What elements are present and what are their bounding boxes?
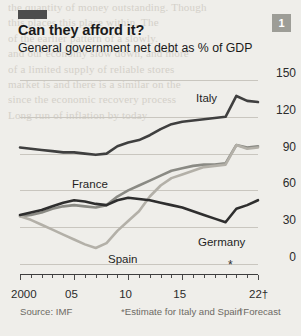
x-axis-tick <box>258 275 259 280</box>
y-axis-tick-label: 0 <box>262 250 296 264</box>
chart-card: 1 Can they afford it? General government… <box>0 0 301 336</box>
y-axis-tick-label: 90 <box>262 140 296 154</box>
x-axis-tick-label: 2000 <box>11 288 37 300</box>
x-axis-tick <box>96 275 97 278</box>
series-line-italy <box>20 96 258 155</box>
y-axis-tick-label: 60 <box>262 176 296 190</box>
x-axis-tick <box>107 275 108 278</box>
y-axis-tick-label: 150 <box>262 66 296 80</box>
x-axis-tick <box>31 275 32 278</box>
x-axis-tick <box>52 275 53 278</box>
x-axis-tick <box>150 275 151 278</box>
x-axis-tick <box>171 275 172 278</box>
x-axis-tick <box>128 275 129 280</box>
x-axis-tick <box>182 275 183 280</box>
x-axis-tick <box>226 275 227 278</box>
footer-estimate-note: *Estimate for Italy and Spain <box>121 306 242 317</box>
x-axis-tick <box>63 275 64 278</box>
estimate-star-marker: * <box>228 258 233 272</box>
x-axis-tick <box>139 275 140 278</box>
x-axis-tick <box>193 275 194 278</box>
x-axis-tick <box>20 275 21 280</box>
series-label-italy: Italy <box>196 92 217 104</box>
series-label-spain: Spain <box>108 253 137 265</box>
x-axis-tick <box>161 275 162 278</box>
y-axis-tick-label: 120 <box>262 103 296 117</box>
x-axis-tick <box>117 275 118 278</box>
y-axis-tick-label: 30 <box>262 213 296 227</box>
x-axis-tick-label: 10 <box>119 288 132 300</box>
x-axis-tick <box>204 275 205 278</box>
x-axis-tick <box>74 275 75 280</box>
x-axis-tick-label: 05 <box>65 288 78 300</box>
x-axis-tick <box>215 275 216 278</box>
x-axis-tick <box>42 275 43 278</box>
x-axis-tick <box>247 275 248 278</box>
x-axis-tick-label: 22† <box>249 288 268 300</box>
series-line-spain <box>20 145 258 248</box>
x-axis-tick <box>85 275 86 278</box>
x-axis-tick <box>236 275 237 278</box>
footer-forecast-note: †Forecast <box>238 306 281 317</box>
footer-source: Source: IMF <box>20 306 72 317</box>
series-label-germany: Germany <box>198 236 245 248</box>
x-axis-tick-label: 15 <box>173 288 186 300</box>
chart-lines <box>0 0 301 336</box>
series-label-france: France <box>72 178 108 190</box>
